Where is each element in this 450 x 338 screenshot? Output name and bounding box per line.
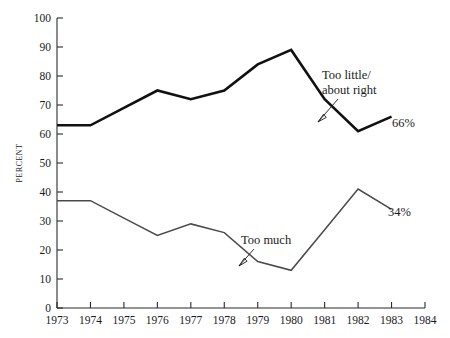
leader-arrowhead-too-little [318, 114, 326, 122]
y-tick-label: 100 [34, 12, 52, 24]
series-label-too-little-line2: about right [322, 83, 377, 97]
y-tick-label: 10 [40, 273, 52, 285]
x-tick-label: 1980 [280, 314, 303, 326]
x-tick-label: 1979 [246, 314, 269, 326]
x-axis: 1973197419751976197719781979198019811982… [46, 302, 437, 326]
y-tick-label: 60 [40, 128, 52, 140]
x-tick-label: 1973 [46, 314, 69, 326]
x-tick-label: 1975 [112, 314, 135, 326]
annotations-group: Too little/ about right Too much 66% 34% [239, 68, 415, 266]
y-tick-label: 0 [45, 302, 51, 314]
x-tick-label: 1977 [179, 314, 202, 326]
x-tick-label: 1981 [313, 314, 336, 326]
y-axis-title: PERCENT [15, 144, 24, 183]
y-axis-ticks: 0102030405060708090100 [34, 12, 63, 314]
x-axis-ticks: 1973197419751976197719781979198019811982… [46, 302, 437, 326]
series-label-too-little-line1: Too little/ [322, 68, 371, 82]
x-tick-label: 1978 [213, 314, 236, 326]
y-axis: 0102030405060708090100 PERCENT [15, 12, 63, 314]
line-chart: 0102030405060708090100 PERCENT 197319741… [0, 0, 450, 338]
x-tick-label: 1976 [146, 314, 169, 326]
x-tick-label: 1984 [414, 314, 437, 326]
y-tick-label: 80 [40, 70, 52, 82]
x-tick-label: 1983 [380, 314, 403, 326]
series-line-too-much [57, 189, 392, 270]
y-tick-label: 70 [40, 99, 52, 111]
y-tick-label: 20 [40, 244, 52, 256]
x-tick-label: 1982 [347, 314, 370, 326]
y-tick-label: 90 [40, 41, 52, 53]
y-tick-label: 30 [40, 215, 52, 227]
chart-container: 0102030405060708090100 PERCENT 197319741… [0, 0, 450, 338]
end-value-label-too-much: 34% [388, 205, 411, 219]
x-tick-label: 1974 [79, 314, 102, 326]
y-tick-label: 50 [40, 157, 52, 169]
end-value-label-too-little: 66% [392, 116, 415, 130]
leader-arrowhead-too-much [239, 258, 247, 266]
series-label-too-much: Too much [241, 233, 292, 247]
y-tick-label: 40 [40, 186, 52, 198]
